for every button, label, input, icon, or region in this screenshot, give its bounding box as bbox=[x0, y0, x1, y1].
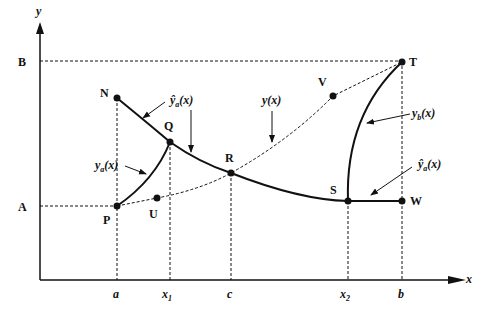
label-v: V bbox=[318, 75, 327, 89]
svg-text:ya(x): ya(x) bbox=[93, 158, 118, 174]
point-v bbox=[330, 93, 337, 100]
point-t bbox=[399, 59, 406, 66]
curve-y-b bbox=[348, 62, 402, 201]
label-n: N bbox=[100, 86, 109, 100]
curve-y-a bbox=[117, 142, 170, 206]
y-axis-arrow-icon bbox=[36, 22, 44, 34]
x-tick-c: c bbox=[227, 287, 233, 301]
label-w: W bbox=[410, 194, 422, 208]
point-s bbox=[345, 198, 352, 205]
label-s: S bbox=[330, 183, 337, 197]
label-r: R bbox=[225, 151, 234, 165]
diagram-canvas: y x N Q R S W T P U V B A a x1 c x2 bbox=[0, 0, 483, 313]
x-tick-b: b bbox=[398, 287, 404, 301]
label-t: T bbox=[409, 55, 417, 69]
point-n bbox=[114, 95, 121, 102]
label-p: P bbox=[103, 213, 110, 227]
svg-text:yb(x): yb(x) bbox=[410, 106, 435, 122]
points bbox=[114, 59, 406, 210]
svg-text:y(x): y(x) bbox=[260, 93, 281, 107]
point-u bbox=[154, 195, 161, 202]
annotation-y-b: yb(x) bbox=[367, 106, 435, 123]
svg-text:ŷa(x): ŷa(x) bbox=[416, 157, 441, 173]
annotation-y-a: ya(x) bbox=[93, 158, 146, 174]
x-tick-x1: x1 bbox=[161, 287, 172, 303]
point-q bbox=[167, 139, 174, 146]
y-tick-b: B bbox=[18, 55, 26, 69]
point-p bbox=[114, 203, 121, 210]
svg-text:ŷa(x): ŷa(x) bbox=[168, 93, 193, 109]
x-axis-label: x bbox=[465, 272, 472, 286]
point-r bbox=[228, 170, 235, 177]
label-u: U bbox=[149, 207, 158, 221]
x-axis-arrow-icon bbox=[448, 276, 466, 284]
axes: y x bbox=[34, 4, 472, 286]
curve-y-hat bbox=[117, 98, 402, 201]
annotation-y-hat-b: ŷa(x) bbox=[371, 157, 441, 195]
label-q: Q bbox=[164, 119, 173, 133]
y-tick-a: A bbox=[18, 200, 27, 214]
x-tick-a: a bbox=[113, 287, 119, 301]
y-axis-label: y bbox=[34, 4, 42, 18]
point-w bbox=[399, 198, 406, 205]
x-tick-x2: x2 bbox=[339, 287, 350, 303]
annotation-y: y(x) bbox=[260, 93, 281, 142]
